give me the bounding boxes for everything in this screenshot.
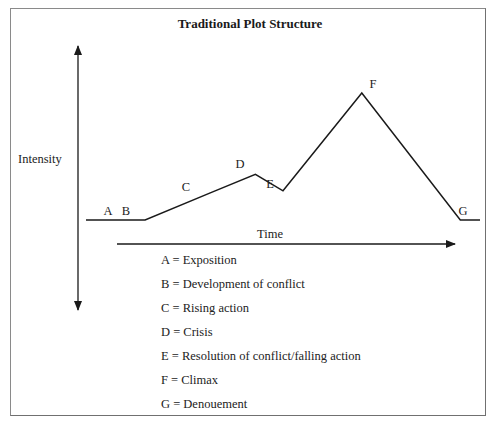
plot-line bbox=[86, 93, 480, 220]
point-label-c: C bbox=[182, 180, 190, 194]
legend-item-c: C = Rising action bbox=[161, 301, 250, 315]
legend-item-b: B = Development of conflict bbox=[161, 277, 305, 291]
legend-item-e: E = Resolution of conflict/falling actio… bbox=[161, 349, 361, 363]
legend-item-a: A = Exposition bbox=[161, 253, 238, 267]
intensity-label: Intensity bbox=[18, 152, 62, 166]
legend: A = Exposition B = Development of confli… bbox=[161, 253, 361, 411]
point-label-a: A bbox=[103, 204, 112, 218]
legend-item-f: F = Climax bbox=[161, 373, 219, 387]
point-label-e: E bbox=[266, 177, 274, 191]
legend-item-g: G = Denouement bbox=[161, 397, 248, 411]
legend-item-d: D = Crisis bbox=[161, 325, 213, 339]
point-label-d: D bbox=[235, 157, 244, 171]
time-label: Time bbox=[257, 227, 283, 241]
plot-structure-diagram: Traditional Plot Structure Intensity Tim… bbox=[0, 0, 499, 431]
point-label-f: F bbox=[370, 77, 377, 91]
point-label-b: B bbox=[122, 204, 130, 218]
point-label-g: G bbox=[458, 204, 467, 218]
diagram-title: Traditional Plot Structure bbox=[178, 16, 323, 31]
